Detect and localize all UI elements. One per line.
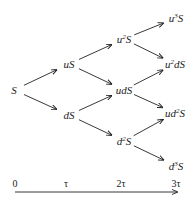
node-S: S bbox=[11, 84, 17, 96]
tree-edges bbox=[0, 0, 192, 202]
node-dS: dS bbox=[64, 109, 75, 121]
binomial-tree-diagram: SuSdSu2SudSd2Su3Su2dSud2Sd3S 0τ2τ3τ bbox=[0, 0, 192, 202]
edge-dS-to-udS bbox=[79, 96, 111, 111]
time-tick-label: τ bbox=[64, 178, 68, 189]
node-d2S: d2S bbox=[117, 135, 132, 147]
time-tick-label: 3τ bbox=[171, 178, 180, 189]
node-d3S: d3S bbox=[169, 160, 184, 172]
edge-S-to-uS bbox=[24, 70, 56, 85]
time-tick-label: 2τ bbox=[116, 178, 125, 189]
node-u2S: u2S bbox=[117, 33, 132, 45]
edge-d2S-to-ud2S bbox=[134, 120, 163, 136]
edge-udS-to-u2dS bbox=[134, 70, 163, 85]
edge-u2S-to-u2dS bbox=[134, 44, 163, 58]
edge-d2S-to-d3S bbox=[134, 146, 163, 160]
edge-dS-to-d2S bbox=[79, 120, 111, 135]
edge-uS-to-u2S bbox=[79, 45, 111, 60]
edge-udS-to-ud2S bbox=[134, 95, 162, 108]
time-tick-label: 0 bbox=[13, 178, 18, 189]
edge-u2S-to-u3S bbox=[134, 23, 163, 35]
edge-S-to-dS bbox=[24, 95, 56, 110]
node-uS: uS bbox=[64, 58, 75, 70]
node-u3S: u3S bbox=[169, 12, 184, 24]
edge-arrows bbox=[24, 23, 163, 160]
edge-uS-to-udS bbox=[79, 69, 111, 84]
node-udS: udS bbox=[116, 84, 133, 96]
node-ud2S: ud2S bbox=[165, 107, 185, 119]
node-u2dS: u2dS bbox=[165, 58, 185, 70]
